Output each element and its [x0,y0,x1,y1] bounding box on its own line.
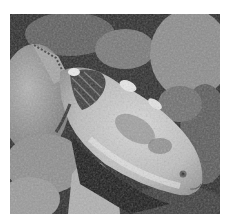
fish-photo [10,14,220,214]
